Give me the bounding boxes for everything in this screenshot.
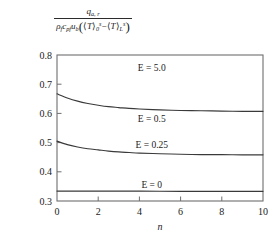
x-tick-label: 0: [55, 206, 60, 217]
y-tick-label: 0.7: [40, 79, 53, 90]
axis-title-numerator: qa, r: [54, 6, 132, 19]
y-axis-ticks: 0.30.40.50.60.70.8: [40, 50, 62, 207]
axis-title-fraction: qa, r ρfcpfub(⟨T⟩0s−⟨T⟩Ls): [54, 6, 132, 35]
x-axis-name: n: [158, 221, 163, 232]
curve-label: E = 0.5: [138, 114, 166, 124]
curve-label: E = 0.25: [135, 140, 168, 150]
x-axis-label: n: [158, 221, 163, 232]
x-tick-label: 4: [137, 206, 142, 217]
curve-label: E = 5.0: [138, 63, 166, 73]
x-tick-label: 6: [178, 206, 183, 217]
axis-title-denominator: ρfcpfub(⟨T⟩0s−⟨T⟩Ls): [54, 19, 132, 35]
denominator-close-paren: ): [125, 19, 129, 34]
chart-plot-area: 0.30.40.50.60.70.8 0246810 E = 5.0E = 0.…: [0, 49, 273, 233]
data-curve: [57, 94, 263, 112]
y-tick-label: 0.4: [40, 166, 53, 177]
y-tick-label: 0.5: [40, 137, 53, 148]
y-axis-title: qa, r ρfcpfub(⟨T⟩0s−⟨T⟩Ls): [0, 6, 186, 35]
x-axis-ticks: 0246810: [55, 197, 269, 218]
curve-annotations: E = 5.0E = 0.5E = 0.25E = 0: [135, 63, 168, 190]
numerator-subscript: a, r: [91, 10, 100, 17]
y-tick-label: 0.3: [40, 196, 53, 207]
y-tick-label: 0.6: [40, 108, 53, 119]
curve-label: E = 0: [141, 180, 162, 190]
y-tick-label: 0.8: [40, 50, 53, 61]
line-chart-svg: 0.30.40.50.60.70.8 0246810 E = 5.0E = 0.…: [0, 49, 273, 233]
x-tick-label: 8: [219, 206, 224, 217]
x-tick-label: 10: [258, 206, 268, 217]
x-tick-label: 2: [96, 206, 101, 217]
